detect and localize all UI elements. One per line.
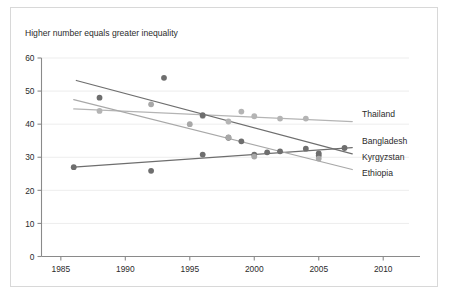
data-point-bangladesh: [342, 145, 348, 151]
data-point-thailand: [303, 116, 309, 122]
trend-line-thailand: [74, 109, 353, 122]
y-tick-label: 10: [25, 219, 35, 229]
x-tick-label: 1990: [116, 264, 135, 274]
x-axis-ticks: 198519901995200020052010: [52, 257, 393, 274]
data-point-ethiopia: [148, 101, 154, 107]
data-point-bangladesh: [200, 152, 206, 158]
y-tick-label: 0: [30, 252, 35, 262]
x-tick-label: 2005: [309, 264, 328, 274]
data-point-bangladesh: [71, 164, 77, 170]
series-name-labels: ThailandBangladeshKyrgyzstanEthiopia: [362, 109, 408, 178]
trend-line-ethiopia: [74, 100, 353, 170]
data-point-bangladesh: [303, 146, 309, 152]
data-point-ethiopia: [251, 154, 257, 160]
data-point-kyrgyzstan: [200, 112, 206, 118]
series-label-kyrgyzstan: Kyrgyzstan: [362, 152, 405, 162]
data-point-kyrgyzstan: [97, 95, 103, 101]
series-label-ethiopia: Ethiopia: [362, 168, 393, 178]
x-tick-label: 1985: [52, 264, 71, 274]
chart-container: Higher number equals greater inequality …: [0, 0, 450, 299]
data-point-ethiopia: [226, 135, 232, 141]
y-tick-label: 50: [25, 86, 35, 96]
data-point-kyrgyzstan: [264, 149, 270, 155]
y-gridlines: [42, 58, 410, 223]
data-point-bangladesh: [148, 168, 154, 174]
y-tick-label: 60: [25, 53, 35, 63]
data-point-thailand: [277, 116, 283, 122]
data-point-thailand: [226, 119, 232, 125]
chart-title: Higher number equals greater inequality: [25, 28, 179, 38]
data-point-ethiopia: [316, 156, 322, 162]
y-tick-label: 30: [25, 152, 35, 162]
x-tick-label: 2010: [374, 264, 393, 274]
inequality-scatter-chart: Higher number equals greater inequality …: [0, 0, 450, 299]
data-point-thailand: [97, 108, 103, 114]
data-point-bangladesh: [277, 148, 283, 154]
data-point-kyrgyzstan: [238, 138, 244, 144]
series-label-thailand: Thailand: [362, 109, 395, 119]
series-label-bangladesh: Bangladesh: [362, 136, 408, 146]
data-point-thailand: [238, 109, 244, 115]
y-tick-label: 20: [25, 186, 35, 196]
data-point-ethiopia: [187, 121, 193, 127]
y-tick-label: 40: [25, 119, 35, 129]
series-trend-lines: [74, 80, 353, 169]
x-tick-label: 1995: [180, 264, 199, 274]
data-point-kyrgyzstan: [161, 75, 167, 81]
x-tick-label: 2000: [245, 264, 264, 274]
y-axis-ticks: 0102030405060: [25, 53, 41, 262]
data-point-thailand: [251, 113, 257, 119]
